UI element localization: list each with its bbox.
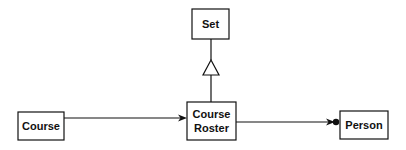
person-class-node[interactable]: Person — [340, 111, 388, 139]
set-class-node[interactable]: Set — [192, 9, 229, 39]
course-label: Course — [22, 120, 60, 132]
many-dot-icon — [333, 119, 339, 125]
person-label: Person — [345, 119, 383, 131]
course-class-node[interactable]: Course — [18, 112, 64, 140]
course-to-roster-edge — [64, 115, 187, 122]
generalization-edge — [203, 39, 219, 102]
course-roster-label-line2: Roster — [194, 122, 230, 134]
hollow-triangle-icon — [203, 60, 219, 75]
set-label: Set — [202, 18, 219, 30]
uml-diagram: Set Course Course Roster Person — [0, 0, 406, 150]
course-roster-class-node[interactable]: Course Roster — [187, 102, 236, 140]
course-roster-label-line1: Course — [193, 108, 231, 120]
roster-to-person-edge — [236, 119, 339, 126]
